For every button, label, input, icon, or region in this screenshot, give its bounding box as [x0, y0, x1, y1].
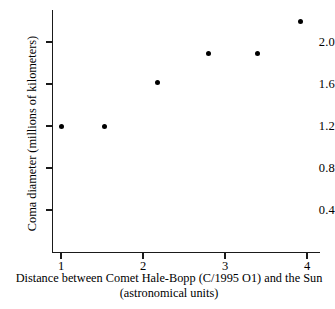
y-axis-title: Coma diameter (millions of kilometers)	[26, 19, 39, 249]
data-point	[255, 51, 260, 56]
data-point	[206, 51, 211, 56]
y-axis-line	[52, 10, 53, 253]
y-axis-tick	[46, 125, 52, 126]
y-axis-tick-label: 2.0	[291, 36, 335, 49]
y-axis-tick-label: 0.4	[291, 204, 335, 217]
y-axis-tick-label: 1.2	[291, 120, 335, 133]
x-axis-title: Distance between Comet Hale-Bopp (C/1995…	[14, 271, 324, 301]
y-axis-tick-label: 0.8	[291, 162, 335, 175]
x-axis-title-line-2: (astronomical units)	[14, 286, 324, 301]
y-axis-tick	[46, 209, 52, 210]
x-axis-line	[52, 252, 320, 253]
scatter-chart-figure: 0.40.81.21.62.0 1234 Coma diameter (mill…	[0, 0, 335, 309]
y-axis-tick-label: 1.6	[291, 78, 335, 91]
data-point	[298, 19, 303, 24]
y-axis-tick	[46, 83, 52, 84]
data-point	[155, 80, 160, 85]
y-axis-tick	[46, 41, 52, 42]
x-axis-title-line-1: Distance between Comet Hale-Bopp (C/1995…	[14, 271, 324, 286]
y-axis-tick	[46, 167, 52, 168]
data-point	[102, 124, 107, 129]
data-point	[59, 124, 64, 129]
